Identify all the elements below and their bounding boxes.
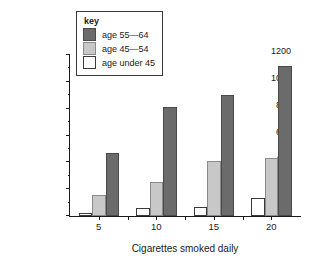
bar xyxy=(163,107,177,216)
y-axis-tick xyxy=(66,161,70,162)
x-axis-tick xyxy=(99,216,100,220)
y-axis-minor-tick xyxy=(68,94,71,95)
x-axis-minor-tick xyxy=(128,216,129,220)
y-axis-minor-tick xyxy=(68,175,71,176)
y-axis-tick xyxy=(66,54,70,55)
x-axis-tick-label: 10 xyxy=(151,222,162,232)
bar xyxy=(194,207,208,216)
x-axis-tick xyxy=(214,216,215,220)
legend-title: key xyxy=(84,16,155,26)
y-axis-minor-tick xyxy=(68,67,71,68)
legend-label-age-45-54: age 45—54 xyxy=(102,44,149,54)
legend: key age 55—64 age 45—54 age under 45 xyxy=(76,11,163,76)
bar xyxy=(136,208,150,216)
y-axis-tick xyxy=(66,108,70,109)
legend-label-age-55-64: age 55—64 xyxy=(102,30,149,40)
y-axis-tick xyxy=(66,135,70,136)
bar xyxy=(106,153,120,216)
bar xyxy=(207,161,221,216)
y-axis-tick xyxy=(66,188,70,189)
bar xyxy=(92,195,106,216)
bar xyxy=(251,198,265,216)
legend-item-age-55-64: age 55—64 xyxy=(83,28,155,41)
chart-figure: 0200400600800100012005101520 Cigarettes … xyxy=(0,0,314,266)
legend-label-age-under-45: age under 45 xyxy=(102,58,155,68)
legend-swatch-icon-age-under-45 xyxy=(83,56,96,69)
y-axis-tick xyxy=(66,215,70,216)
x-axis-tick-label: 20 xyxy=(266,222,277,232)
plot-area: 0200400600800100012005101520 xyxy=(70,55,300,216)
x-axis-title: Cigarettes smoked daily xyxy=(70,243,300,254)
bar xyxy=(221,95,235,216)
legend-swatch-icon-age-45-54 xyxy=(83,42,96,55)
x-axis-tick xyxy=(156,216,157,220)
x-axis-tick-label: 15 xyxy=(208,222,219,232)
x-axis-minor-tick xyxy=(185,216,186,220)
y-axis-minor-tick xyxy=(68,202,71,203)
y-axis-tick-label: 1200 xyxy=(271,47,291,56)
legend-item-age-45-54: age 45—54 xyxy=(83,42,155,55)
y-axis-minor-tick xyxy=(68,148,71,149)
y-axis-tick xyxy=(66,81,70,82)
bar xyxy=(150,182,164,216)
legend-swatch-icon-age-55-64 xyxy=(83,28,96,41)
bar xyxy=(265,158,279,216)
x-axis-minor-tick xyxy=(243,216,244,220)
x-axis-tick-label: 5 xyxy=(96,222,101,232)
x-axis-tick xyxy=(271,216,272,220)
y-axis-minor-tick xyxy=(68,121,71,122)
bar xyxy=(278,66,292,216)
bar xyxy=(79,213,93,216)
legend-item-age-under-45: age under 45 xyxy=(83,56,155,69)
